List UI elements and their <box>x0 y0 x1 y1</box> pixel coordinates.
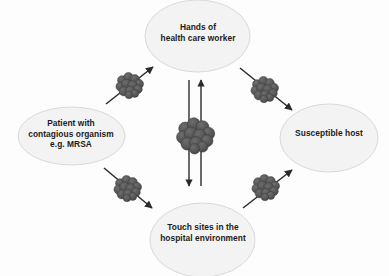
organism-cluster-upper-right <box>251 77 279 103</box>
organism-cluster-center <box>177 118 215 154</box>
organism-cluster-upper-left <box>116 73 144 99</box>
node-ellipse-touch <box>150 203 255 276</box>
organism-cluster-lower-right <box>252 175 280 201</box>
diagram-canvas <box>0 0 389 276</box>
node-ellipse-host <box>280 104 378 172</box>
organism-cluster-lower-left <box>114 176 142 202</box>
node-ellipse-patient <box>18 107 125 165</box>
node-ellipse-hands <box>145 0 250 72</box>
transmission-diagram: Hands of health care worker Patient with… <box>0 0 389 276</box>
